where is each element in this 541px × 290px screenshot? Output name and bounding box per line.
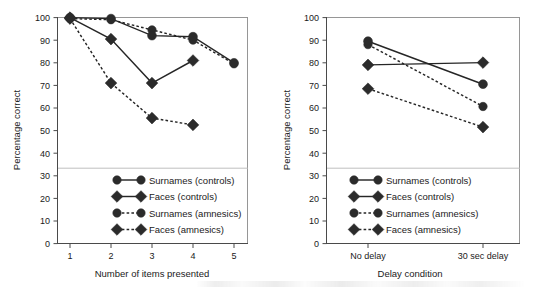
y-tick-label: 70 (40, 81, 50, 91)
y-tick-label: 100 (35, 13, 50, 23)
legend-label: Surnames (amnesics) (386, 208, 478, 219)
x-tick-label: 5 (231, 251, 236, 261)
y-tick-label: 60 (40, 103, 50, 113)
y-tick-label: 40 (40, 149, 50, 159)
circle-marker (374, 209, 382, 217)
diamond-marker (187, 55, 199, 67)
x-axis-tick-labels: No delay 30 sec delay (350, 251, 509, 261)
y-tick-label: 0 (45, 239, 50, 249)
y-tick-label: 40 (309, 149, 319, 159)
x-tick-label: 1 (67, 251, 72, 261)
diamond-marker (477, 121, 489, 133)
diamond-marker (348, 191, 360, 203)
right-panel-svg: 100 90 80 70 60 50 40 30 20 10 0 No dela… (270, 0, 541, 290)
diamond-marker (362, 83, 374, 95)
diamond-marker (111, 191, 123, 203)
diamond-marker (348, 224, 360, 236)
series-markers-faces-amnesics (64, 13, 199, 131)
circle-marker (364, 37, 373, 46)
y-tick-label: 70 (309, 81, 319, 91)
legend-label: Faces (controls) (149, 191, 217, 202)
circle-marker (137, 209, 145, 217)
y-axis-tick-labels: 100 90 80 70 60 50 40 30 20 10 0 (304, 13, 319, 249)
circle-marker (374, 176, 382, 184)
y-tick-label: 20 (40, 194, 50, 204)
diamond-marker (64, 12, 76, 24)
legend-item-faces-controls: Faces (controls) (348, 191, 454, 203)
x-axis-tick-labels: 1 2 3 4 5 (67, 251, 236, 261)
legend-item-faces-amnesics: Faces (amnesics) (111, 224, 224, 236)
circle-marker (113, 176, 121, 184)
legend-label: Surnames (controls) (386, 175, 472, 186)
x-tick-label: 30 sec delay (458, 251, 509, 261)
legend-item-surnames-controls: Surnames (controls) (113, 175, 235, 186)
scan-artifact (196, 281, 526, 287)
diamond-marker (362, 59, 374, 71)
y-tick-label: 30 (309, 171, 319, 181)
legend-label: Faces (controls) (386, 191, 454, 202)
x-tick-label: No delay (350, 251, 386, 261)
x-tick-label: 2 (108, 251, 113, 261)
x-axis-title: Number of items presented (95, 268, 210, 279)
y-axis-tick-labels: 100 90 80 70 60 50 40 30 20 10 0 (35, 13, 50, 249)
diamond-marker (111, 224, 123, 236)
left-panel-svg: 100 90 80 70 60 50 40 30 20 10 0 (0, 0, 270, 290)
legend-label: Faces (amnesics) (386, 224, 461, 235)
circle-marker (479, 102, 487, 110)
y-tick-label: 90 (309, 36, 319, 46)
series-line-faces-amnesics (368, 89, 483, 127)
circle-marker (113, 209, 121, 217)
y-tick-label: 0 (314, 239, 319, 249)
y-tick-label: 30 (40, 171, 50, 181)
series-markers-surnames-amnesics (364, 40, 487, 110)
series-markers-faces-controls (64, 12, 199, 89)
figure-container: 100 90 80 70 60 50 40 30 20 10 0 (0, 0, 541, 290)
y-axis-title: Percentage correct (281, 90, 292, 171)
diamond-marker (372, 224, 384, 236)
x-tick-label: 3 (149, 251, 154, 261)
circle-marker (350, 176, 358, 184)
y-axis-title: Percentage correct (11, 90, 22, 171)
series-line-faces-amnesics (70, 19, 193, 125)
legend-label: Faces (amnesics) (149, 224, 224, 235)
y-tick-label: 90 (40, 36, 50, 46)
legend-item-surnames-controls: Surnames (controls) (350, 175, 472, 186)
y-tick-label: 10 (309, 216, 319, 226)
series-markers-surnames-amnesics (66, 14, 238, 68)
x-axis-title: Delay condition (378, 268, 443, 279)
y-tick-label: 80 (309, 58, 319, 68)
diamond-marker (372, 191, 384, 203)
y-tick-label: 50 (309, 126, 319, 136)
x-axis-ticks (70, 244, 234, 249)
y-tick-label: 80 (40, 58, 50, 68)
x-axis-ticks (368, 244, 483, 249)
legend-item-surnames-amnesics: Surnames (amnesics) (350, 208, 479, 219)
chart-panel-left: 100 90 80 70 60 50 40 30 20 10 0 (0, 0, 270, 290)
legend-item-faces-amnesics: Faces (amnesics) (348, 224, 461, 236)
diamond-marker (135, 224, 147, 236)
circle-marker (148, 31, 157, 40)
diamond-marker (477, 57, 489, 69)
circle-marker (189, 32, 198, 41)
series-line-surnames-amnesics (368, 45, 483, 107)
legend-item-surnames-amnesics: Surnames (amnesics) (113, 208, 242, 219)
circle-marker (350, 209, 358, 217)
y-tick-label: 20 (309, 194, 319, 204)
legend-item-faces-controls: Faces (controls) (111, 191, 217, 203)
y-tick-label: 100 (304, 13, 319, 23)
circle-marker (479, 80, 488, 89)
series-markers-surnames-controls (66, 13, 239, 67)
diamond-marker (187, 119, 199, 131)
diamond-marker (135, 191, 147, 203)
circle-marker (230, 58, 239, 67)
y-axis-ticks (323, 18, 327, 244)
chart-panel-right: 100 90 80 70 60 50 40 30 20 10 0 No dela… (270, 0, 541, 290)
y-tick-label: 10 (40, 216, 50, 226)
y-tick-label: 50 (40, 126, 50, 136)
legend: Surnames (controls) Faces (controls) Sur… (111, 175, 241, 236)
legend-label: Surnames (amnesics) (149, 208, 241, 219)
series-markers-faces-amnesics (362, 83, 489, 133)
y-axis-ticks (54, 18, 58, 244)
legend: Surnames (controls) Faces (controls) Sur… (348, 175, 478, 236)
x-tick-label: 4 (190, 251, 195, 261)
